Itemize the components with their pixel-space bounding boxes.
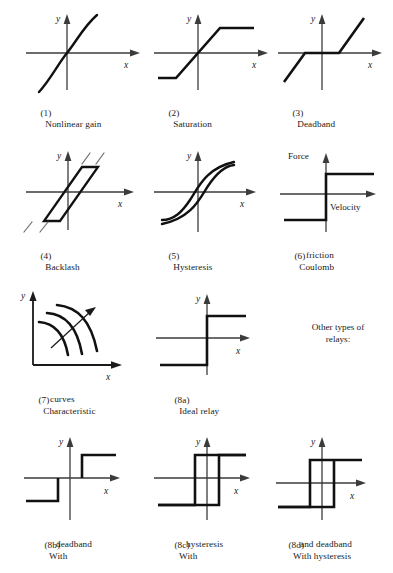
- y-axis-label: y: [186, 14, 192, 24]
- other-relays-note: Other types of relays:: [288, 321, 388, 345]
- y-axis-arrow: [204, 294, 211, 304]
- caption-label: Ideal relay: [179, 406, 219, 416]
- caption-ideal-relay: (8a) Ideal relay: [160, 383, 219, 429]
- figure-saturation: x y (2) Saturation: [148, 6, 278, 96]
- y-axis-label: y: [310, 14, 316, 24]
- characteristic-curves-plot: x y: [10, 283, 140, 383]
- characteristic-curve-2: [47, 313, 82, 354]
- caption-relay-with-hysteresis-line2: hysteresis: [186, 539, 223, 551]
- other-relays-note-line2: relays:: [288, 333, 388, 345]
- caption-relay-with-deadband: (8b) With: [30, 528, 67, 573]
- x-axis-arrow: [372, 50, 382, 57]
- characteristic-curve-1: [39, 322, 68, 355]
- figure-deadband: x y (3) Deadband: [272, 6, 393, 96]
- caption-coulomb-friction: (6) Coulomb: [280, 239, 334, 285]
- y-axis-label: y: [58, 437, 64, 447]
- y-axis-arrow: [65, 151, 72, 161]
- y-axis-label: y: [310, 437, 316, 447]
- x-axis-arrow: [240, 475, 250, 482]
- caption-number: (1): [40, 108, 51, 120]
- x-axis-label: x: [349, 491, 355, 501]
- y-axis-label: y: [55, 14, 61, 24]
- caption-relay-with-deadband-line2: deadband: [56, 539, 92, 551]
- x-axis-arrow: [130, 50, 140, 57]
- x-axis-arrow: [356, 480, 366, 487]
- caption-number: (8a): [174, 395, 189, 407]
- caption-label: Nonlinear gain: [45, 119, 101, 129]
- caption-relay-with-hysteresis-and-deadband: (8d) With hysteresis: [274, 528, 351, 573]
- coulomb-friction-step: [284, 174, 374, 220]
- relay-with-hysteresis-plot: x y: [150, 428, 280, 528]
- caption-characteristic-curves: (7) Characteristic: [24, 383, 96, 429]
- relay-hysteresis-falling-branch: [158, 455, 246, 505]
- x-axis-label: x: [123, 60, 129, 70]
- y-axis-label: y: [20, 291, 26, 301]
- figure-relay-with-deadband: x y (8b) With deadband: [20, 428, 150, 528]
- caption-number: (7): [38, 395, 49, 407]
- caption-label: Saturation: [173, 119, 212, 129]
- caption-number: (2): [168, 108, 179, 120]
- y-axis-label: y: [195, 437, 201, 447]
- caption-label: With: [49, 551, 67, 561]
- relay-with-deadband-plot: x y: [20, 428, 150, 528]
- figure-characteristic-curves: x y (7) Characteristic curves: [10, 283, 140, 383]
- saturation-plot: x y: [148, 6, 278, 96]
- x-axis-arrow: [124, 189, 134, 196]
- y-axis-label: y: [186, 151, 192, 161]
- x-axis-arrow: [258, 50, 268, 57]
- relay-deadband-upper-step: [82, 455, 116, 478]
- caption-label: Deadband: [297, 119, 335, 129]
- x-axis-label: x: [117, 199, 123, 209]
- figure-ideal-relay: x y (8a) Ideal relay: [150, 283, 280, 383]
- relay-with-hysteresis-and-deadband-plot: x y: [272, 428, 393, 528]
- caption-relay-with-hysteresis: (8c) With: [160, 528, 197, 573]
- figure-relay-with-hysteresis: x y (8c) With hysteresis: [150, 428, 280, 528]
- deadband-curve: [284, 18, 364, 82]
- figure-backlash: x y (4) Backlash: [20, 144, 150, 239]
- x-axis-arrow: [110, 475, 120, 482]
- caption-number: (6): [294, 251, 305, 263]
- nonlinear-gain-plot: x y: [20, 6, 150, 96]
- caption-backlash: (4) Backlash: [26, 239, 80, 285]
- relay-hysteresis-rising-branch: [158, 455, 246, 505]
- x-axis-label: x: [103, 486, 109, 496]
- caption-nonlinear-gain: (1) Nonlinear gain: [26, 96, 101, 142]
- x-axis-arrow: [111, 361, 122, 369]
- backlash-loop: [44, 167, 98, 221]
- x-axis-label: x: [235, 346, 241, 356]
- caption-coulomb-friction-line2: friction: [306, 250, 334, 262]
- caption-label: Backlash: [45, 262, 79, 272]
- caption-characteristic-curves-line2: curves: [50, 394, 75, 406]
- x-axis-arrow: [246, 189, 256, 196]
- force-axis-label: Force: [288, 151, 309, 161]
- relay-deadband-lower-step: [26, 478, 58, 501]
- x-axis-label: x: [239, 199, 245, 209]
- y-axis-arrow: [29, 291, 36, 301]
- other-relays-note-line1: Other types of: [288, 321, 388, 333]
- y-axis-arrow: [195, 151, 202, 161]
- caption-label: With hysteresis: [293, 551, 351, 561]
- x-axis-arrow: [240, 335, 250, 342]
- caption-label: Hysteresis: [173, 262, 212, 272]
- caption-hysteresis: (5) Hysteresis: [154, 239, 212, 285]
- figure-hysteresis: x y (5) Hysteresis: [148, 144, 278, 239]
- hysteresis-deadband-lower-left: [278, 483, 310, 507]
- hysteresis-plot: x y: [148, 144, 278, 239]
- caption-label: Characteristic: [43, 406, 95, 416]
- y-axis-arrow: [195, 14, 202, 24]
- x-axis-label: x: [251, 60, 257, 70]
- deadband-plot: x y: [272, 6, 393, 96]
- figure-coulomb-friction: Force Velocity (6) Coulomb friction: [276, 144, 393, 239]
- caption-number: (4): [40, 251, 51, 263]
- caption-number: (3): [292, 108, 303, 120]
- y-axis-arrow: [64, 14, 71, 24]
- backlash-plot: x y: [20, 144, 150, 239]
- ideal-relay-plot: x y: [150, 283, 280, 383]
- ideal-relay-step: [160, 316, 246, 365]
- velocity-axis-label: Velocity: [330, 202, 361, 212]
- y-axis-arrow: [319, 14, 326, 24]
- coulomb-friction-plot: Force Velocity: [276, 144, 393, 239]
- y-axis-arrow: [323, 153, 330, 163]
- y-axis-arrow: [319, 437, 326, 447]
- y-axis-label: y: [195, 294, 201, 304]
